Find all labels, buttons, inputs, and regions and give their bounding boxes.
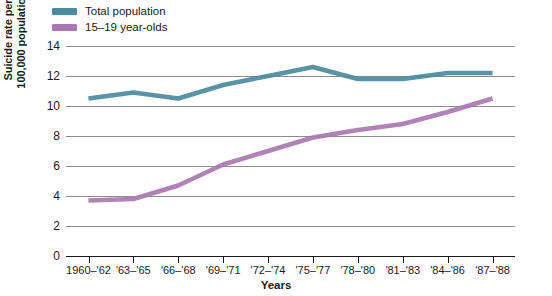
y-tick-6: 6 — [38, 160, 60, 172]
plot-area — [66, 46, 515, 256]
x-tick-3 — [223, 257, 224, 263]
x-tick-label-6: '78–'80 — [340, 264, 375, 276]
x-tick-label-3: '69–'71 — [206, 264, 241, 276]
x-tick-0 — [89, 257, 90, 263]
legend-label-teen: 15–19 year-olds — [85, 21, 167, 33]
x-tick-label-8: '84–'86 — [430, 264, 465, 276]
legend-swatch-total-population — [52, 8, 77, 15]
x-tick-6 — [358, 257, 359, 263]
y-tick-2: 2 — [38, 220, 60, 232]
series-lines — [66, 46, 515, 256]
legend-item-teen: 15–19 year-olds — [52, 20, 167, 34]
legend-swatch-teen — [52, 24, 77, 31]
y-tick-8: 8 — [38, 130, 60, 142]
x-tick-label-4: '72–'74 — [251, 264, 286, 276]
chart-legend: Total population 15–19 year-olds — [52, 4, 167, 36]
x-tick-label-7: '81–'83 — [385, 264, 420, 276]
y-tick-0: 0 — [38, 250, 60, 262]
y-axis-title-line2: 100,000 population — [15, 0, 28, 100]
x-tick-label-5: '75–'77 — [295, 264, 330, 276]
legend-item-total-population: Total population — [52, 4, 167, 18]
series-line-total-population — [88, 67, 492, 99]
legend-label-total-population: Total population — [85, 5, 166, 17]
x-tick-8 — [448, 257, 449, 263]
x-tick-label-0: 1960–'62 — [66, 264, 111, 276]
y-axis-title-line1: Suicide rate per — [2, 0, 14, 80]
y-tick-14: 14 — [38, 40, 60, 52]
x-tick-4 — [268, 257, 269, 263]
x-tick-7 — [403, 257, 404, 263]
x-tick-label-2: '66–'68 — [161, 264, 196, 276]
x-axis-title: Years — [0, 279, 552, 291]
x-tick-1 — [133, 257, 134, 263]
y-tick-4: 4 — [38, 190, 60, 202]
y-tick-10: 10 — [38, 100, 60, 112]
y-axis-title: Suicide rate per 100,000 population — [2, 0, 28, 100]
x-tick-label-9: '87–'88 — [475, 264, 510, 276]
chart-container: Total population 15–19 year-olds Suicide… — [0, 0, 552, 296]
x-tick-label-1: '63–'65 — [116, 264, 151, 276]
x-tick-9 — [493, 257, 494, 263]
series-line-teen — [88, 99, 492, 201]
x-tick-2 — [178, 257, 179, 263]
y-axis-ticks: 14 12 10 8 6 4 2 0 — [38, 46, 60, 256]
x-tick-5 — [313, 257, 314, 263]
y-tick-12: 12 — [38, 70, 60, 82]
